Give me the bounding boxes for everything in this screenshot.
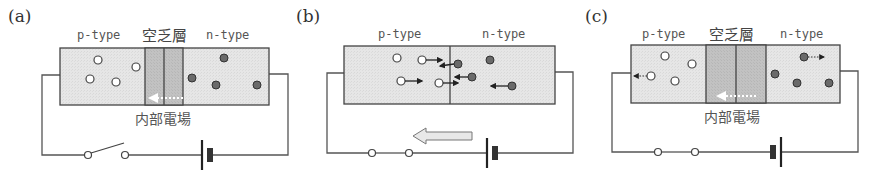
panel-b-switch-terminal-left bbox=[369, 150, 376, 157]
hole-icon bbox=[112, 78, 120, 86]
hole-icon bbox=[86, 75, 94, 83]
panel-b-switch-terminal-right bbox=[406, 150, 413, 157]
circuit-graphics bbox=[0, 0, 872, 185]
electron-icon bbox=[771, 70, 779, 78]
electron-icon bbox=[793, 79, 801, 87]
hole-icon bbox=[688, 60, 696, 68]
hole-icon bbox=[397, 77, 405, 85]
panel-c-battery-short-plate bbox=[770, 145, 776, 159]
hole-icon bbox=[435, 79, 443, 87]
electron-icon bbox=[825, 79, 833, 87]
hole-icon bbox=[393, 54, 401, 62]
hole-icon bbox=[647, 72, 655, 80]
panel-a bbox=[42, 48, 288, 170]
panel-b-battery-short-plate bbox=[492, 146, 498, 160]
panel-c bbox=[612, 45, 858, 167]
panel-a-battery-short-plate bbox=[207, 148, 213, 162]
hole-icon bbox=[132, 63, 140, 71]
electron-icon bbox=[486, 56, 494, 64]
panel-a-switch-terminal-right bbox=[122, 152, 129, 159]
electron-icon bbox=[800, 53, 808, 61]
panel-c-switch-terminal-left bbox=[655, 149, 662, 156]
electron-icon bbox=[468, 73, 476, 81]
hole-icon bbox=[671, 77, 679, 85]
hole-icon bbox=[94, 56, 102, 64]
electron-icon bbox=[508, 82, 516, 90]
hole-icon bbox=[661, 52, 669, 60]
hole-icon bbox=[418, 56, 426, 64]
pn-junction-diagram: (a) p-type 空乏層 n-type 内部電場 --- +++ (b) p… bbox=[0, 0, 872, 185]
panel-b bbox=[327, 46, 573, 168]
panel-c-switch-terminal-right bbox=[692, 149, 699, 156]
panel-a-switch-terminal-left bbox=[85, 152, 92, 159]
panel-a-switch-lever-open bbox=[91, 143, 124, 153]
electron-icon bbox=[188, 74, 196, 82]
current-direction-arrow-icon bbox=[413, 128, 472, 144]
electron-icon bbox=[220, 54, 228, 62]
electron-icon bbox=[212, 81, 220, 89]
electron-icon bbox=[253, 81, 261, 89]
electron-icon bbox=[454, 60, 462, 68]
